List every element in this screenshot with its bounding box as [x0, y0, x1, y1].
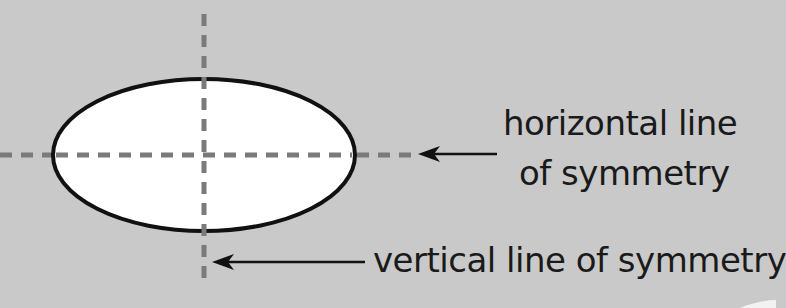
vertical-arrow — [212, 254, 365, 270]
horizontal-arrow — [418, 146, 497, 162]
vertical-label: vertical line of symmetry — [373, 243, 786, 277]
corner-shape — [740, 300, 776, 308]
horizontal-label-line1: horizontal line — [503, 106, 737, 140]
horizontal-label-line2: of symmetry — [519, 156, 730, 190]
